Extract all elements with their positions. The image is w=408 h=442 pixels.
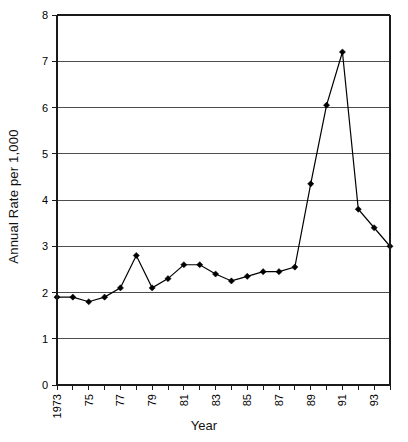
y-tick-label-2: 2	[42, 287, 48, 299]
x-tick-label-79: 79	[146, 394, 158, 406]
x-tick-label-77: 77	[114, 394, 126, 406]
data-point-1988	[292, 264, 298, 270]
y-tick-label-5: 5	[42, 148, 48, 160]
data-point-1984	[228, 278, 234, 284]
x-tick-label-91: 91	[336, 394, 348, 406]
data-point-1983	[212, 271, 218, 277]
x-tick-label-75: 75	[83, 394, 95, 406]
x-tick-label-83: 83	[210, 394, 222, 406]
x-tick-label-93: 93	[368, 394, 380, 406]
data-point-1978	[133, 252, 139, 258]
y-tick-label-1: 1	[42, 333, 48, 345]
x-tick-label-81: 81	[178, 394, 190, 406]
x-axis-tick-labels: 197375777981838587899193	[51, 394, 380, 418]
y-tick-label-7: 7	[42, 55, 48, 67]
x-axis-title: Year	[0, 418, 408, 433]
data-point-1991	[339, 49, 345, 55]
line-chart: Annual Rate per 1,000 012345678 19737577…	[0, 0, 408, 442]
data-point-1985	[244, 273, 250, 279]
y-tick-label-8: 8	[42, 9, 48, 21]
y-tick-label-4: 4	[42, 194, 48, 206]
data-point-1976	[101, 294, 107, 300]
x-tick-label-85: 85	[241, 394, 253, 406]
gridlines	[57, 15, 390, 339]
data-series	[54, 49, 393, 305]
data-point-1987	[276, 269, 282, 275]
data-point-1989	[308, 181, 314, 187]
series-line	[57, 52, 390, 302]
axis-ticks	[52, 15, 390, 390]
x-tick-label-87: 87	[273, 394, 285, 406]
data-point-1979	[149, 285, 155, 291]
data-point-1975	[86, 299, 92, 305]
y-axis-tick-labels: 012345678	[42, 9, 48, 391]
x-tick-label-1973: 1973	[51, 394, 63, 418]
y-tick-label-3: 3	[42, 240, 48, 252]
data-point-1974	[70, 294, 76, 300]
y-tick-label-6: 6	[42, 102, 48, 114]
data-point-1977	[117, 285, 123, 291]
data-point-1982	[197, 262, 203, 268]
data-point-1986	[260, 269, 266, 275]
plot-area: 012345678 197375777981838587899193	[0, 0, 408, 442]
x-tick-label-89: 89	[305, 394, 317, 406]
y-tick-label-0: 0	[42, 379, 48, 391]
x-axis-title-label: Year	[191, 418, 217, 433]
